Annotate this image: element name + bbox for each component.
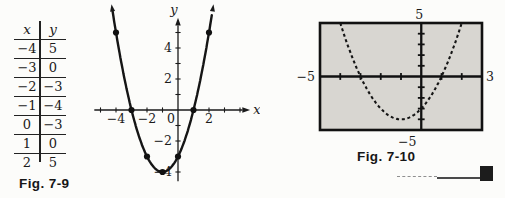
curve-arrow-right	[210, 4, 215, 11]
table-cell: 5	[40, 154, 66, 172]
textbook-figure-panel: x y −45−30−2−3−1−40−31025 Fig. 7-9 −4−20…	[0, 0, 505, 198]
parabola-graph: −4−202−4−224xy	[90, 0, 260, 198]
end-of-section-square-icon	[480, 166, 493, 181]
table-cell: −3	[14, 59, 40, 77]
end-marker-dashed-line	[397, 176, 437, 177]
table-cell: −4	[40, 97, 66, 115]
x-tick-label: 2	[205, 111, 213, 126]
x-axis-arrow	[242, 107, 250, 113]
table-column-divider	[39, 21, 40, 162]
data-point	[175, 153, 181, 159]
calculator-screen-graph: 5−53−5	[290, 0, 505, 198]
xy-value-table: x y −45−30−2−3−1−40−31025	[14, 21, 66, 172]
table-cell: −2	[14, 78, 40, 96]
y-tick-label: −2	[154, 133, 172, 148]
x-tick-label: 0	[167, 111, 175, 126]
y-axis-arrow	[175, 18, 181, 26]
data-point	[190, 107, 196, 113]
y-axis-label: y	[169, 2, 178, 17]
y-tick-label: 2	[164, 71, 172, 86]
window-ymin-label: −5	[398, 134, 416, 149]
y-tick-label: 4	[164, 40, 172, 55]
table-cell: 2	[14, 154, 40, 172]
data-point	[159, 169, 165, 175]
window-xmax-label: 3	[486, 69, 494, 84]
data-point	[128, 107, 134, 113]
figure-7-9-caption: Fig. 7-9	[19, 176, 69, 191]
table-cell: 1	[14, 135, 40, 153]
table-cell: 0	[40, 135, 66, 153]
table-cell: 0	[14, 116, 40, 134]
curve-arrow-left	[110, 4, 115, 11]
data-point	[206, 29, 212, 35]
data-point	[144, 153, 150, 159]
window-xmin-label: −5	[297, 69, 315, 84]
table-header-y: y	[40, 21, 66, 39]
window-ymax-label: 5	[415, 7, 423, 22]
data-point	[113, 29, 119, 35]
table-header-x: x	[14, 21, 40, 39]
end-marker-solid-line	[437, 177, 481, 179]
table-cell: −4	[14, 40, 40, 58]
table-cell: −3	[40, 78, 66, 96]
figure-7-10-caption: Fig. 7-10	[357, 149, 415, 164]
table-cell: 5	[40, 40, 66, 58]
table-cell: −1	[14, 97, 40, 115]
x-axis-label: x	[253, 102, 260, 117]
x-tick-label: −2	[138, 111, 156, 126]
table-cell: 0	[40, 59, 66, 77]
table-cell: −3	[40, 116, 66, 134]
x-tick-label: −4	[107, 111, 125, 126]
